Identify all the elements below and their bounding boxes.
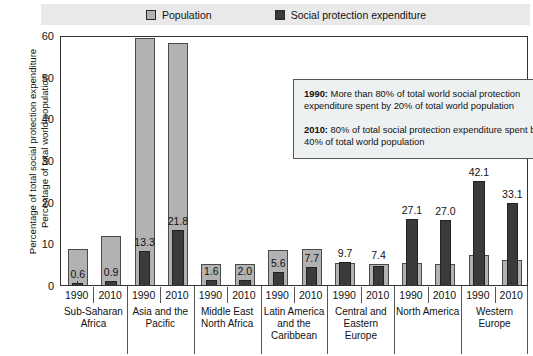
bar-pair: 9.7 (328, 37, 361, 285)
x-axis-year-label: 1990 (60, 286, 93, 304)
bar-group: 5.67.7 (262, 37, 329, 285)
year-separator (227, 287, 228, 303)
light-square-swatch-icon (146, 10, 156, 20)
x-axis-group: 19902010Middle East North Africa (194, 286, 261, 356)
bar-pair: 7.7 (295, 37, 328, 285)
x-axis-year-label: 2010 (93, 286, 126, 304)
bar-pair: 42.1 (462, 37, 495, 285)
bar-value-label: 0.6 (70, 268, 85, 280)
legend-label-expenditure: Social protection expenditure (291, 9, 426, 21)
plot-area: 0.60.913.321.81.62.05.67.79.77.427.127.0… (60, 36, 528, 286)
bar-expenditure (139, 251, 150, 285)
bar-value-label: 1.6 (204, 265, 219, 277)
annotation-1990-label: 1990: (304, 88, 328, 99)
year-separator (294, 287, 295, 303)
x-axis: 19902010Sub-Saharan Africa19902010Asia a… (60, 286, 528, 356)
bar-expenditure (406, 219, 417, 285)
y-tick-label: 60 (14, 30, 54, 42)
chart-legend: Population Social protection expenditure (41, 4, 530, 25)
bar-value-label: 21.8 (168, 215, 188, 227)
x-axis-year-label: 1990 (394, 286, 427, 304)
y-tick-label: 40 (14, 113, 54, 125)
bar-group: 13.321.8 (128, 37, 195, 285)
bar-value-label: 9.7 (338, 247, 353, 259)
year-separator (495, 287, 496, 303)
bar-group: 9.77.4 (328, 37, 395, 285)
bar-pair: 0.6 (61, 37, 94, 285)
x-axis-group: 19902010Western Europe (461, 286, 528, 356)
x-axis-region-label: Central and Eastern Europe (327, 304, 394, 342)
x-axis-year-label: 2010 (495, 286, 528, 304)
year-separator (361, 287, 362, 303)
bar-expenditure (273, 272, 284, 285)
bar-expenditure (507, 203, 518, 285)
bar-value-label: 27.0 (435, 205, 455, 217)
bar-expenditure (172, 230, 183, 285)
bar-group: 27.127.0 (395, 37, 462, 285)
group-separator (261, 286, 262, 354)
bar-group: 42.133.1 (462, 37, 529, 285)
y-tick-label: 30 (14, 155, 54, 167)
chart-figure: Population Social protection expenditure… (0, 0, 533, 356)
x-axis-year-label: 2010 (294, 286, 327, 304)
bar-value-label: 2.0 (238, 265, 253, 277)
x-axis-year-row: 19902010 (461, 286, 528, 304)
bar-expenditure (206, 280, 217, 285)
group-separator (194, 286, 195, 354)
bar-pair: 0.9 (94, 37, 127, 285)
bar-value-label: 5.6 (271, 257, 286, 269)
bar-value-label: 0.9 (104, 266, 119, 278)
bar-value-label: 27.1 (402, 204, 422, 216)
bar-pair: 7.4 (362, 37, 395, 285)
x-axis-region-label: Sub-Saharan Africa (60, 304, 127, 330)
bar-value-label: 7.7 (304, 252, 319, 264)
group-separator (327, 286, 328, 354)
y-tick-label: 0 (14, 280, 54, 292)
x-axis-year-label: 2010 (227, 286, 260, 304)
x-axis-year-label: 1990 (327, 286, 360, 304)
annotation-1990-text: More than 80% of total world social prot… (304, 88, 520, 111)
x-axis-year-label: 1990 (194, 286, 227, 304)
x-axis-group: 19902010Asia and the Pacific (127, 286, 194, 356)
bar-value-label: 33.1 (502, 188, 522, 200)
x-axis-year-label: 1990 (127, 286, 160, 304)
y-tick-label: 10 (14, 238, 54, 250)
y-tick-label: 20 (14, 197, 54, 209)
x-axis-year-label: 2010 (160, 286, 193, 304)
x-axis-group: 19902010Sub-Saharan Africa (60, 286, 127, 356)
bar-group: 0.60.9 (61, 37, 128, 285)
annotation-box: 1990: More than 80% of total world socia… (293, 79, 533, 159)
x-axis-year-row: 19902010 (327, 286, 394, 304)
bar-pair: 33.1 (496, 37, 529, 285)
x-axis-year-label: 2010 (361, 286, 394, 304)
bar-pair: 2.0 (228, 37, 261, 285)
x-axis-group: 19902010Central and Eastern Europe (327, 286, 394, 356)
dark-square-swatch-icon (275, 10, 285, 20)
x-axis-region-label: Asia and the Pacific (127, 304, 194, 330)
x-axis-year-row: 19902010 (194, 286, 261, 304)
x-axis-year-row: 19902010 (60, 286, 127, 304)
bar-expenditure (473, 181, 484, 285)
year-separator (93, 287, 94, 303)
bar-pair: 1.6 (195, 37, 228, 285)
x-axis-region-label: Latin America and the Caribbean (261, 304, 328, 342)
year-separator (428, 287, 429, 303)
x-axis-region-label: Middle East North Africa (194, 304, 261, 330)
bar-expenditure (440, 220, 451, 285)
x-axis-year-label: 1990 (461, 286, 494, 304)
x-axis-region-label: North America (394, 304, 461, 318)
x-axis-group: 19902010North America (394, 286, 461, 356)
bar-value-label: 42.1 (469, 166, 489, 178)
legend-label-population: Population (162, 9, 212, 21)
y-tick-label: 50 (14, 72, 54, 84)
group-separator (461, 286, 462, 354)
annotation-2010-label: 2010: (304, 124, 328, 135)
legend-item-population: Population (146, 9, 212, 21)
bar-expenditure (339, 262, 350, 285)
bar-expenditure (72, 283, 83, 286)
y-axis-ticks: 0102030405060 (0, 36, 60, 286)
bar-group: 1.62.0 (195, 37, 262, 285)
x-axis-group: 19902010Latin America and the Caribbean (261, 286, 328, 356)
bar-pair: 13.3 (128, 37, 161, 285)
bar-population (135, 38, 155, 285)
